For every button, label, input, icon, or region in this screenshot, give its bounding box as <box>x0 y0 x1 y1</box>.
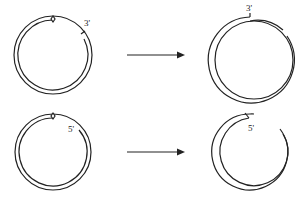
label-5prime-after: 5' <box>248 123 255 133</box>
label-3prime-after: 3' <box>246 3 253 13</box>
circle-top-left: 3' <box>14 16 92 94</box>
circle-bottom-right: 5' <box>212 113 288 190</box>
diagram-canvas: 3' 3' 5' 5' <box>0 0 303 198</box>
label-3prime: 3' <box>84 18 91 28</box>
right-arrow-icon <box>127 52 185 59</box>
circle-top-right: 3' <box>208 3 294 103</box>
right-arrow-icon <box>127 149 185 156</box>
label-5prime: 5' <box>68 124 75 134</box>
circle-bottom-left: 5' <box>15 113 91 190</box>
